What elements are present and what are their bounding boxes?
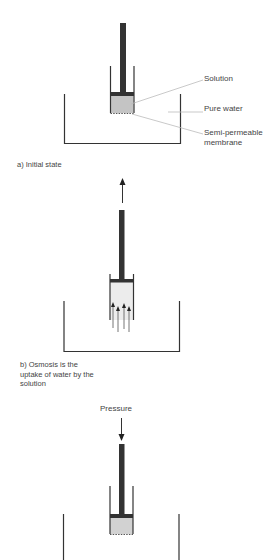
label-pure-water: Pure water bbox=[204, 104, 243, 114]
up-arrow-head bbox=[120, 178, 126, 185]
leader-membrane bbox=[132, 114, 203, 134]
solution-fill-a bbox=[111, 96, 134, 113]
solution-fill-c bbox=[110, 518, 133, 534]
piston-rod-b bbox=[119, 210, 125, 280]
down-arrow-head bbox=[119, 434, 125, 441]
caption-b-line3: solution bbox=[20, 379, 46, 389]
label-membrane-line2: membrane bbox=[204, 138, 242, 148]
label-membrane-line1: Semi-permeable bbox=[204, 128, 263, 138]
caption-b-line2: uptake of water by the bbox=[20, 370, 94, 380]
leader-solution bbox=[131, 80, 203, 104]
panel-c-apparatus bbox=[64, 418, 180, 560]
caption-a: a) Initial state bbox=[17, 160, 62, 170]
label-pressure: Pressure bbox=[100, 404, 132, 414]
caption-b-line1: b) Osmosis is the bbox=[20, 360, 78, 370]
panel-b-apparatus bbox=[64, 178, 180, 352]
label-solution: Solution bbox=[204, 74, 233, 84]
piston-rod-a bbox=[120, 23, 126, 93]
panel-a-apparatus bbox=[65, 23, 204, 144]
osmosis-diagram bbox=[0, 0, 280, 560]
piston-rod-c bbox=[119, 444, 125, 516]
